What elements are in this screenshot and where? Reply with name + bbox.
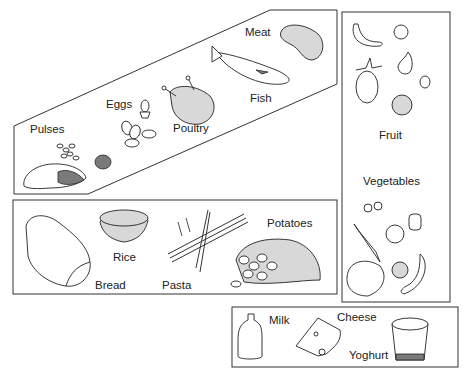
label-pasta: Pasta <box>162 280 191 292</box>
pulses-icon <box>24 144 111 189</box>
label-fish: Fish <box>250 93 272 105</box>
label-poultry: Poultry <box>173 123 209 135</box>
yoghurt-icon <box>392 318 428 360</box>
fruit-icons <box>353 24 430 115</box>
fish-icon <box>212 46 289 84</box>
label-vegetables: Vegetables <box>363 176 420 188</box>
cheese-icon <box>296 318 340 356</box>
bread-icon <box>26 216 90 286</box>
label-bread: Bread <box>95 280 126 292</box>
label-milk: Milk <box>269 315 289 327</box>
label-eggs: Eggs <box>106 99 132 111</box>
food-groups-diagram: Pulses Eggs Poultry Fish Meat Fruit Vege… <box>0 0 465 375</box>
label-rice: Rice <box>113 252 136 264</box>
label-potatoes: Potatoes <box>267 218 312 230</box>
pasta-icon <box>168 210 248 272</box>
fruit-veg-group-border <box>342 12 450 302</box>
vegetable-icons <box>347 202 425 296</box>
label-yoghurt: Yoghurt <box>349 350 388 362</box>
rice-icon <box>100 210 148 242</box>
poultry-icon <box>162 76 214 124</box>
label-fruit: Fruit <box>379 130 402 142</box>
label-cheese: Cheese <box>337 312 377 324</box>
label-meat: Meat <box>245 27 271 39</box>
label-pulses: Pulses <box>30 124 65 136</box>
milk-icon <box>238 314 262 359</box>
meat-icon <box>280 25 322 60</box>
potatoes-icon <box>231 239 320 287</box>
diagram-shapes <box>0 0 465 375</box>
